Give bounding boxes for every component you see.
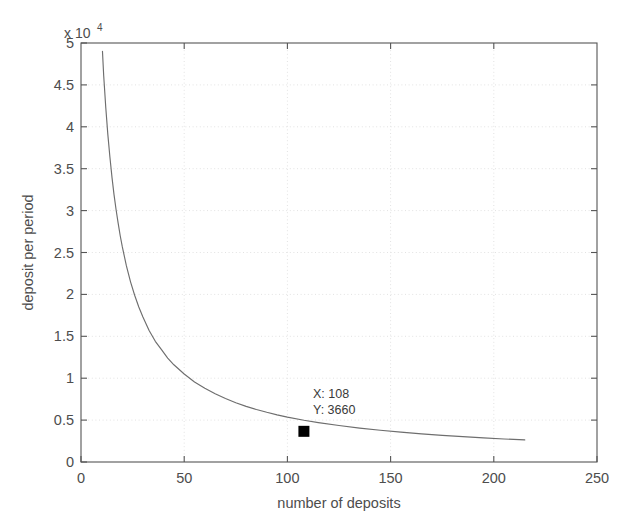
horizontal-gridlines	[81, 85, 597, 420]
y-tick-label: 3.5	[54, 161, 74, 177]
data-series-line	[102, 51, 524, 440]
y-tick-label: 5	[66, 35, 74, 51]
y-tick-label: 1	[66, 370, 74, 386]
exponent-power-text: 4	[97, 22, 103, 33]
x-tick-label: 100	[275, 470, 299, 486]
x-tick-label: 200	[482, 470, 506, 486]
y-tick-label: 0	[66, 454, 74, 470]
x-tick-label: 250	[585, 470, 609, 486]
y-tick-label: 4	[66, 119, 74, 135]
y-tick-label: 0.5	[54, 412, 74, 428]
x-tick-labels: 0 50 100 150 200 250	[77, 470, 609, 486]
x-axis-title: number of deposits	[277, 495, 400, 511]
y-tick-label: 3	[66, 203, 74, 219]
datatip-marker-square[interactable]	[298, 426, 309, 437]
datatip-y-label: Y: 3660	[313, 403, 355, 417]
x-tick-label: 0	[77, 470, 85, 486]
figure-canvas: x 10 4 5 4.5 4 3.5 3 2.5 2 1.5 1 0.5 0 0…	[0, 0, 640, 527]
y-tick-label: 4.5	[54, 77, 74, 93]
y-tick-labels: 5 4.5 4 3.5 3 2.5 2 1.5 1 0.5 0	[54, 35, 74, 470]
x-tick-label: 50	[176, 470, 192, 486]
y-tick-label: 2.5	[54, 245, 74, 261]
datatip-x-label: X: 108	[313, 387, 349, 401]
y-tick-label: 2	[66, 286, 74, 302]
datatip-annotation: X: 108 Y: 3660	[313, 387, 355, 417]
x-tick-label: 150	[378, 470, 402, 486]
chart-plot-area: x 10 4 5 4.5 4 3.5 3 2.5 2 1.5 1 0.5 0 0…	[0, 0, 640, 527]
y-tick-label: 1.5	[54, 328, 74, 344]
y-axis-title: deposit per period	[20, 194, 36, 310]
